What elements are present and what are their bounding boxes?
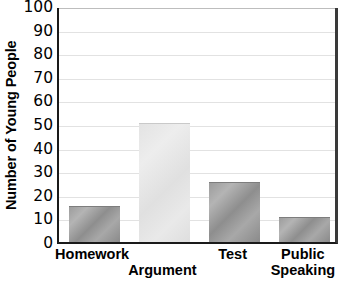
- y-axis-tick-label: 30: [33, 165, 53, 181]
- y-axis-title: Number of Young People: [0, 0, 22, 250]
- y-axis-tick-label: 50: [33, 118, 53, 134]
- x-axis-label-line1: Public: [248, 246, 349, 262]
- y-axis-tick-label: 100: [23, 0, 53, 16]
- y-axis-tick-label: 20: [33, 189, 53, 205]
- x-axis-label-line2: Speaking: [248, 262, 349, 278]
- bar: [209, 182, 260, 242]
- bar: [279, 217, 330, 242]
- y-axis-tick-label: 80: [33, 47, 53, 63]
- y-axis-tick-label: 10: [33, 213, 53, 229]
- y-axis-tick-label: 70: [33, 71, 53, 87]
- x-axis-category-labels: Homework ArgumentTest PublicSpeaking: [57, 246, 338, 286]
- y-axis-tick-labels: 0102030405060708090100: [22, 8, 55, 244]
- plot-area: [57, 8, 338, 244]
- x-axis-label: PublicSpeaking: [248, 246, 349, 278]
- y-axis-tick-label: 90: [33, 24, 53, 40]
- y-axis-title-text: Number of Young People: [4, 40, 19, 210]
- bar: [139, 123, 190, 242]
- bar-chart: Number of Young People 01020304050607080…: [0, 0, 349, 286]
- bars-layer: [59, 8, 335, 242]
- bar: [69, 206, 120, 242]
- y-axis-tick-label: 60: [33, 95, 53, 111]
- y-axis-tick-label: 40: [33, 142, 53, 158]
